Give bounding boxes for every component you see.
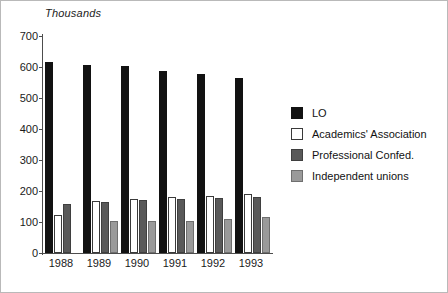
bar-group-1988	[45, 36, 72, 253]
plot-area	[42, 36, 270, 253]
legend-swatch-aa	[291, 128, 303, 140]
bar-group-1992	[197, 36, 233, 253]
y-axis-tick-700: 700	[20, 30, 38, 42]
bar-lo-1989	[83, 65, 91, 253]
legend-item-iu: Independent unions	[291, 165, 441, 186]
y-axis-unit-title: Thousands	[45, 7, 101, 19]
bar-group-1993	[235, 36, 271, 253]
y-axis-tick-0: 0	[32, 247, 38, 259]
bar-pc-1992	[215, 198, 223, 253]
bar-iu-1991	[186, 221, 194, 253]
bar-aa-1989	[92, 201, 100, 253]
x-axis-tick-1991: 1991	[156, 257, 194, 269]
legend-item-lo: LO	[291, 102, 441, 123]
x-axis-tick-1989: 1989	[80, 257, 118, 269]
legend-item-pc: Professional Confed.	[291, 144, 441, 165]
bar-aa-1990	[130, 199, 138, 253]
bar-aa-1991	[168, 197, 176, 253]
bar-iu-1992	[224, 219, 232, 253]
bar-aa-1988	[54, 215, 62, 253]
x-axis-tick-1992: 1992	[194, 257, 232, 269]
bar-group-1991	[159, 36, 195, 253]
legend-swatch-pc	[291, 149, 303, 161]
bar-group-1990	[121, 36, 157, 253]
bar-pc-1991	[177, 199, 185, 253]
bar-group-1989	[83, 36, 119, 253]
legend-label: LO	[312, 107, 327, 119]
x-axis-tick-1988: 1988	[42, 257, 80, 269]
bar-iu-1993	[262, 217, 270, 253]
y-axis-tick-labels: 7006005004003002001000	[1, 1, 38, 293]
bar-pc-1988	[63, 204, 71, 253]
bar-pc-1990	[139, 200, 147, 253]
bar-pc-1993	[253, 197, 261, 253]
legend-swatch-iu	[291, 170, 303, 182]
y-axis-tick-mark	[39, 160, 42, 161]
y-axis-tick-mark	[39, 253, 42, 254]
y-axis-tick-mark	[39, 191, 42, 192]
y-axis-tick-mark	[39, 36, 42, 37]
y-axis-tick-100: 100	[20, 216, 38, 228]
legend-label: Academics' Association	[312, 128, 427, 140]
bar-aa-1993	[244, 194, 252, 253]
y-axis-tick-200: 200	[20, 185, 38, 197]
bar-lo-1993	[235, 78, 243, 253]
y-axis-tick-500: 500	[20, 92, 38, 104]
y-axis-tick-mark	[39, 67, 42, 68]
y-axis-tick-400: 400	[20, 123, 38, 135]
bar-lo-1991	[159, 71, 167, 253]
legend-item-aa: Academics' Association	[291, 123, 441, 144]
bar-iu-1990	[148, 221, 156, 253]
y-axis-tick-mark	[39, 98, 42, 99]
y-axis-tick-mark	[39, 129, 42, 130]
legend-swatch-lo	[291, 107, 303, 119]
bar-aa-1992	[206, 196, 214, 253]
chart-legend: LOAcademics' AssociationProfessional Con…	[291, 102, 441, 186]
legend-label: Independent unions	[312, 170, 409, 182]
x-axis-tick-1990: 1990	[118, 257, 156, 269]
bar-lo-1988	[45, 62, 53, 253]
legend-label: Professional Confed.	[312, 149, 414, 161]
y-axis-tick-600: 600	[20, 61, 38, 73]
bar-pc-1989	[101, 202, 109, 253]
y-axis-tick-mark	[39, 222, 42, 223]
x-axis-line	[42, 253, 273, 254]
bar-iu-1989	[110, 221, 118, 253]
bar-lo-1992	[197, 74, 205, 253]
bar-chart-figure: Thousands 7006005004003002001000 1988198…	[0, 0, 448, 293]
y-axis-tick-300: 300	[20, 154, 38, 166]
x-axis-tick-1993: 1993	[232, 257, 270, 269]
bar-lo-1990	[121, 66, 129, 253]
